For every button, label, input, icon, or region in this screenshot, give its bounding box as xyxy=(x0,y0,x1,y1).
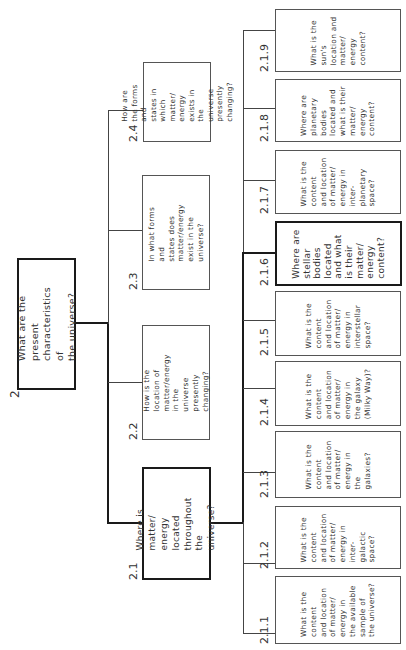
connector-2-1-4 xyxy=(243,388,275,389)
connector-trunk-level3-lower xyxy=(243,522,244,634)
node-label-2-1-1: 2.1.1 xyxy=(258,616,271,644)
connector-2-1-5 xyxy=(243,320,275,321)
node-text: How are the forms and states in which ma… xyxy=(120,82,234,122)
node-2-3: In what forms and states does matter/ene… xyxy=(142,175,210,290)
node-text: What is the content and location of matt… xyxy=(299,157,377,206)
node-root: What are the present characteristics of … xyxy=(17,258,76,390)
node-2-1-9: What is the sun's location and matter/ e… xyxy=(275,9,401,72)
connector-2-3 xyxy=(108,230,142,231)
node-text: What is the content and location of matt… xyxy=(299,513,377,562)
connector-2-1-7 xyxy=(243,180,275,181)
node-label-2-2: 2.2 xyxy=(127,423,140,441)
connector-2-1-8 xyxy=(243,108,275,109)
node-text: What is the content and location of matt… xyxy=(304,299,372,348)
connector-trunk-level2-bold xyxy=(107,322,109,524)
node-2-1-8: Where are planetary bodies located and w… xyxy=(275,79,401,142)
node-label-2-1: 2.1 xyxy=(127,563,140,581)
node-text: In what forms and states does matter/ene… xyxy=(147,204,206,261)
node-label-2-1-6: 2.1.6 xyxy=(258,258,271,286)
node-text: What is the content and location of matt… xyxy=(299,583,377,637)
node-text: Where are stellar bodies located and wha… xyxy=(291,229,386,278)
node-2-1-1: What is the content and location of matt… xyxy=(275,576,401,644)
node-label-2-4: 2.4 xyxy=(127,125,140,143)
node-2-1-4: What is the content and location of matt… xyxy=(275,361,401,426)
connector-trunk-level2 xyxy=(108,110,109,324)
node-2-1-2: What is the content and location of matt… xyxy=(275,506,401,569)
node-text: What are the present characteristics of … xyxy=(15,287,78,361)
node-label-2-1-8: 2.1.8 xyxy=(258,114,271,142)
node-label-2-1-4: 2.1.4 xyxy=(258,398,271,426)
connector-2-1-9 xyxy=(243,30,275,31)
connector-root xyxy=(75,322,109,324)
node-2-1: Where is matter/ energy located througho… xyxy=(142,467,211,580)
node-text: What is the content and location of matt… xyxy=(304,368,372,418)
connector-trunk-level3-upper xyxy=(243,30,244,254)
node-label-2-1-9: 2.1.9 xyxy=(258,44,271,72)
node-2-1-6: Where are stellar bodies located and wha… xyxy=(275,221,402,286)
node-2-1-3: What is the content and location of matt… xyxy=(275,431,401,498)
node-text: How is the location of matter/energy in … xyxy=(142,354,210,411)
node-label-2-1-2: 2.1.2 xyxy=(258,541,271,569)
node-text: What is the sun's location and matter/ e… xyxy=(309,16,368,65)
node-2-2: How is the location of matter/energy in … xyxy=(142,325,210,440)
node-label-2-1-7: 2.1.7 xyxy=(258,186,271,214)
node-2-1-7: What is the content and location of matt… xyxy=(275,150,401,214)
node-text: Where is matter/ energy located througho… xyxy=(135,497,218,550)
node-2-4: How are the forms and states in which ma… xyxy=(143,62,211,142)
node-2-1-5: What is the content and location of matt… xyxy=(275,291,401,356)
node-label-2-3: 2.3 xyxy=(127,273,140,291)
node-label-2-1-3: 2.1.3 xyxy=(258,470,271,498)
connector-2-2 xyxy=(108,382,142,383)
node-label-2-1-5: 2.1.5 xyxy=(258,328,271,356)
node-text: What is the content and location of matt… xyxy=(304,440,372,489)
connector-2-1-6 xyxy=(242,252,275,254)
node-text: Where are planetary bodies located and w… xyxy=(299,86,377,136)
